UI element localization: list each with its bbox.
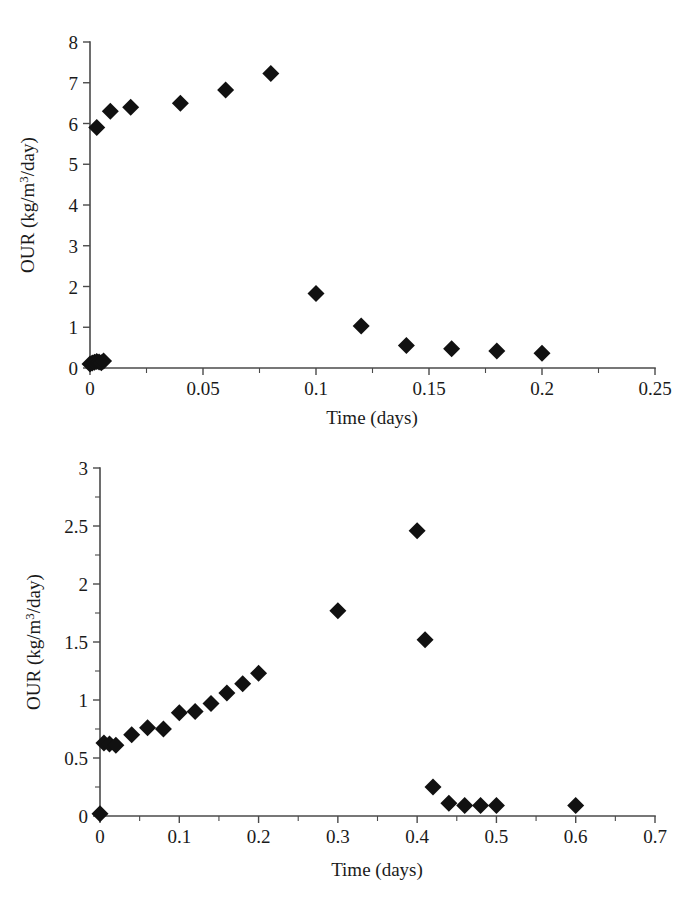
x-tick-label-top-0: 0 bbox=[85, 378, 95, 399]
y-axis-title-top-prefix: OUR (kg/m bbox=[17, 182, 39, 272]
data-point-top-0-10 bbox=[172, 95, 189, 112]
chart-top-axes bbox=[90, 42, 655, 368]
data-point-top-0-8 bbox=[102, 103, 119, 120]
data-point-bottom-0-8 bbox=[187, 703, 204, 720]
y-tick-label-top-2: 2 bbox=[69, 277, 79, 298]
x-axis-title-top: Time (days) bbox=[326, 407, 418, 429]
data-point-top-0-12 bbox=[262, 65, 279, 82]
y-tick-label-bottom-5: 2.5 bbox=[64, 516, 88, 537]
y-tick-label-bottom-3: 1.5 bbox=[64, 632, 88, 653]
y-tick-label-bottom-4: 2 bbox=[79, 574, 89, 595]
y-axis-title-bottom-prefix: OUR (kg/m bbox=[23, 619, 45, 709]
x-tick-label-bottom-3: 0.3 bbox=[326, 826, 350, 847]
data-point-bottom-0-17 bbox=[440, 795, 457, 812]
data-point-bottom-0-14 bbox=[409, 522, 426, 539]
y-tick-label-top-7: 7 bbox=[69, 73, 79, 94]
chart-bottom-tick-labels: 00.10.20.30.40.50.60.700.511.522.53 bbox=[64, 458, 667, 847]
y-tick-label-top-4: 4 bbox=[69, 195, 79, 216]
chart-top: 00.050.10.150.20.25012345678 Time (days)… bbox=[0, 0, 673, 458]
x-axis-title-bottom: Time (days) bbox=[331, 859, 423, 881]
x-tick-label-bottom-5: 0.5 bbox=[485, 826, 509, 847]
data-point-bottom-0-6 bbox=[155, 721, 172, 738]
data-point-bottom-0-20 bbox=[488, 797, 505, 814]
y-tick-label-bottom-6: 3 bbox=[79, 458, 89, 479]
data-point-bottom-0-0 bbox=[92, 805, 109, 822]
chart-top-data-markers bbox=[82, 65, 551, 373]
data-point-top-0-15 bbox=[398, 337, 415, 354]
x-tick-label-bottom-1: 0.1 bbox=[167, 826, 191, 847]
data-point-bottom-0-12 bbox=[250, 665, 267, 682]
data-point-top-0-11 bbox=[217, 82, 234, 99]
chart-bottom-axes bbox=[100, 468, 655, 816]
chart-bottom-ticks bbox=[93, 468, 655, 823]
x-tick-label-top-4: 0.2 bbox=[530, 378, 554, 399]
x-tick-label-top-3: 0.15 bbox=[412, 378, 445, 399]
x-tick-label-bottom-6: 0.6 bbox=[564, 826, 588, 847]
y-axis-title-bottom-suffix: /day) bbox=[23, 574, 45, 613]
chart-top-ticks bbox=[83, 42, 655, 375]
x-tick-label-top-5: 0.25 bbox=[638, 378, 671, 399]
x-tick-label-bottom-4: 0.4 bbox=[405, 826, 429, 847]
data-point-top-0-16 bbox=[443, 340, 460, 357]
chart-top-svg: 00.050.10.150.20.25012345678 Time (days)… bbox=[0, 0, 673, 458]
chart-bottom-data-markers bbox=[92, 522, 585, 822]
y-tick-label-top-6: 6 bbox=[69, 114, 79, 135]
chart-top-tick-labels: 00.050.10.150.20.25012345678 bbox=[69, 32, 672, 399]
data-point-bottom-0-16 bbox=[425, 779, 442, 796]
data-point-bottom-0-15 bbox=[417, 631, 434, 648]
chart-bottom-svg: 00.10.20.30.40.50.60.700.511.522.53 Time… bbox=[0, 450, 673, 917]
data-point-bottom-0-13 bbox=[329, 602, 346, 619]
y-tick-label-bottom-2: 1 bbox=[79, 690, 89, 711]
y-tick-label-top-3: 3 bbox=[69, 236, 79, 257]
data-point-top-0-7 bbox=[88, 119, 105, 136]
chart-bottom: 00.10.20.30.40.50.60.700.511.522.53 Time… bbox=[0, 450, 673, 917]
y-tick-label-top-0: 0 bbox=[69, 358, 79, 379]
x-tick-label-top-2: 0.1 bbox=[304, 378, 328, 399]
x-tick-label-bottom-7: 0.7 bbox=[643, 826, 667, 847]
data-point-bottom-0-9 bbox=[203, 695, 220, 712]
data-point-top-0-17 bbox=[488, 342, 505, 359]
y-tick-label-bottom-1: 0.5 bbox=[64, 748, 88, 769]
y-tick-label-top-1: 1 bbox=[69, 317, 79, 338]
data-point-bottom-0-21 bbox=[567, 797, 584, 814]
data-point-top-0-9 bbox=[122, 99, 139, 116]
data-point-bottom-0-11 bbox=[234, 675, 251, 692]
y-axis-title-top-suffix: /day) bbox=[17, 137, 39, 176]
data-point-bottom-0-7 bbox=[171, 704, 188, 721]
data-point-bottom-0-5 bbox=[139, 719, 156, 736]
x-tick-label-top-1: 0.05 bbox=[186, 378, 219, 399]
y-tick-label-bottom-0: 0 bbox=[79, 806, 89, 827]
data-point-bottom-0-18 bbox=[456, 797, 473, 814]
y-axis-title-top: OUR (kg/m3/day) bbox=[16, 137, 39, 273]
y-tick-label-top-8: 8 bbox=[69, 32, 79, 53]
y-tick-label-top-5: 5 bbox=[69, 154, 79, 175]
data-point-top-0-13 bbox=[308, 285, 325, 302]
data-point-bottom-0-10 bbox=[218, 685, 235, 702]
x-tick-label-bottom-0: 0 bbox=[95, 826, 105, 847]
data-point-top-0-14 bbox=[353, 318, 370, 335]
data-point-top-0-18 bbox=[534, 345, 551, 362]
x-tick-label-bottom-2: 0.2 bbox=[247, 826, 271, 847]
data-point-bottom-0-4 bbox=[123, 726, 140, 743]
data-point-bottom-0-19 bbox=[472, 797, 489, 814]
y-axis-title-bottom: OUR (kg/m3/day) bbox=[22, 574, 45, 710]
